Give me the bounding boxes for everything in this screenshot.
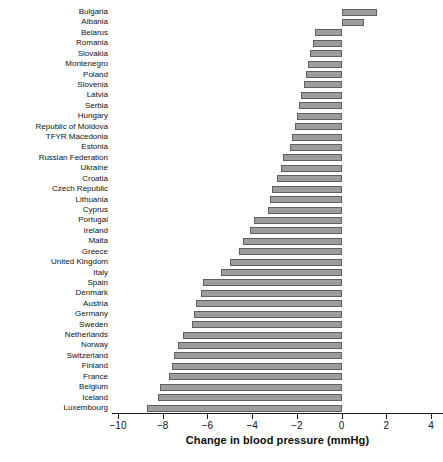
x-tick-label: −4 <box>246 420 257 431</box>
plot-area: −10−8−6−4−2024 Change in blood pressure … <box>112 0 443 462</box>
bar <box>243 238 341 245</box>
category-label: Finland <box>82 362 108 370</box>
category-label: Germany <box>75 310 108 318</box>
x-tick <box>297 414 298 419</box>
x-tick <box>431 414 432 419</box>
category-label: Denmark <box>76 289 108 297</box>
bar <box>250 227 342 234</box>
category-label: Hungary <box>78 112 108 120</box>
bar <box>299 102 341 109</box>
bar <box>183 332 342 339</box>
bar <box>194 311 342 318</box>
bar <box>315 29 342 36</box>
bar-chart: BulgariaAlbaniaBelarusRomaniaSlovakiaMon… <box>0 0 443 462</box>
bar <box>147 405 342 412</box>
category-label: Iceland <box>82 394 108 402</box>
bar <box>342 19 364 26</box>
bar <box>283 154 341 161</box>
bar <box>270 196 342 203</box>
bar <box>254 217 341 224</box>
category-label: Greece <box>82 248 108 256</box>
bar <box>306 71 342 78</box>
x-tick-label: 4 <box>428 420 434 431</box>
x-tick <box>163 414 164 419</box>
bars-layer <box>112 0 443 462</box>
bar <box>272 186 341 193</box>
x-tick-label: −10 <box>110 420 127 431</box>
category-label: Sweden <box>79 321 108 329</box>
category-label: Netherlands <box>65 331 108 339</box>
bar <box>169 373 341 380</box>
bar <box>268 207 342 214</box>
category-label: Poland <box>83 71 108 79</box>
category-label: Austria <box>83 300 108 308</box>
x-tick-label: −2 <box>291 420 302 431</box>
bar <box>310 50 341 57</box>
bar <box>290 144 341 151</box>
bar <box>192 321 342 328</box>
category-label: Serbia <box>85 102 108 110</box>
category-label: Malta <box>88 237 108 245</box>
category-label: Russian Federation <box>39 154 108 162</box>
bar <box>196 300 341 307</box>
category-label: United Kingdom <box>51 258 108 266</box>
category-label: Croatia <box>82 175 108 183</box>
bar <box>308 61 342 68</box>
category-label: Ukraine <box>80 164 108 172</box>
bar <box>277 175 342 182</box>
category-label: Portugal <box>78 216 108 224</box>
bar <box>158 394 341 401</box>
category-axis-labels: BulgariaAlbaniaBelarusRomaniaSlovakiaMon… <box>0 0 112 462</box>
bar <box>281 165 341 172</box>
x-tick <box>252 414 253 419</box>
category-label: Luxembourg <box>64 404 108 412</box>
category-label: Republic of Moldova <box>36 123 108 131</box>
bar <box>304 81 342 88</box>
category-label: TFYR Macedonia <box>46 133 108 141</box>
category-label: Switzerland <box>67 352 108 360</box>
category-label: Belgium <box>79 383 108 391</box>
category-label: Latvia <box>87 91 108 99</box>
x-tick-label: −6 <box>202 420 213 431</box>
bar <box>178 342 341 349</box>
x-tick <box>118 414 119 419</box>
x-tick-label: −8 <box>157 420 168 431</box>
category-label: Italy <box>93 269 108 277</box>
category-label: Lithuania <box>76 196 108 204</box>
category-label: Romania <box>76 39 108 47</box>
category-label: France <box>83 373 108 381</box>
bar <box>292 134 341 141</box>
category-label: Slovakia <box>78 50 108 58</box>
bar <box>230 259 342 266</box>
category-label: Spain <box>88 279 108 287</box>
bar <box>239 248 342 255</box>
bar <box>160 384 341 391</box>
category-label: Estonia <box>81 143 108 151</box>
category-label: Czech Republic <box>52 185 108 193</box>
category-label: Montenegro <box>65 60 108 68</box>
bar <box>295 123 342 130</box>
category-label: Albania <box>81 18 108 26</box>
bar <box>313 40 342 47</box>
category-label: Ireland <box>84 227 108 235</box>
bar <box>174 352 342 359</box>
category-label: Slovenia <box>77 81 108 89</box>
bar <box>201 290 342 297</box>
x-tick <box>342 414 343 419</box>
bar <box>297 113 342 120</box>
bar <box>172 363 342 370</box>
x-axis-line <box>112 413 443 414</box>
category-label: Belarus <box>81 29 108 37</box>
x-tick-label: 2 <box>384 420 390 431</box>
x-tick <box>207 414 208 419</box>
bar <box>203 279 342 286</box>
bar <box>301 92 341 99</box>
category-label: Norway <box>81 341 108 349</box>
x-axis-title: Change in blood pressure (mmHg) <box>112 434 443 446</box>
x-tick <box>386 414 387 419</box>
bar <box>221 269 342 276</box>
bar <box>342 9 378 16</box>
category-label: Bulgaria <box>79 8 108 16</box>
category-label: Cyprus <box>83 206 108 214</box>
x-tick-label: 0 <box>339 420 345 431</box>
